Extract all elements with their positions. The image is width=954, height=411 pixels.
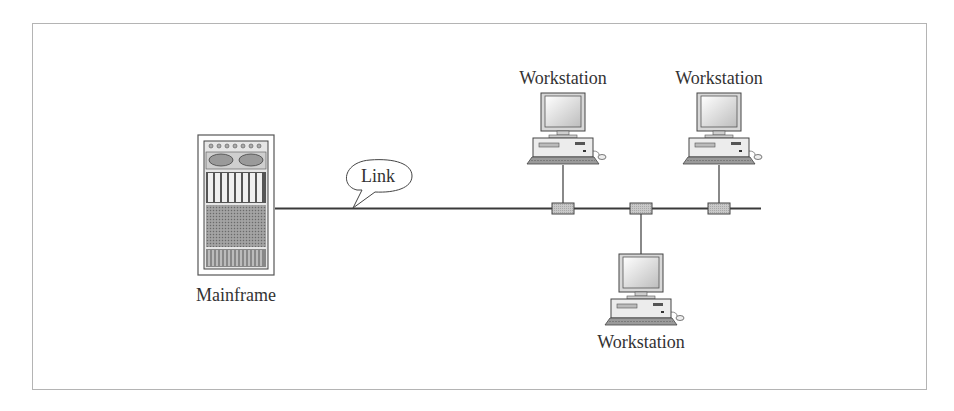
workstation-icon-2 [683, 93, 762, 164]
mainframe-label: Mainframe [196, 285, 276, 306]
link-label: Link [361, 166, 395, 187]
mainframe-icon [198, 135, 274, 275]
workstation-icon-3 [605, 254, 684, 325]
workstation-label-2: Workstation [675, 68, 763, 89]
tap-ws2 [630, 203, 652, 214]
workstation-label-3: Workstation [597, 332, 685, 353]
workstation-label-1: Workstation [519, 68, 607, 89]
tap-ws3 [708, 203, 730, 214]
tap-ws1 [552, 203, 574, 214]
network-diagram [0, 0, 954, 411]
workstation-icon-1 [527, 93, 606, 164]
